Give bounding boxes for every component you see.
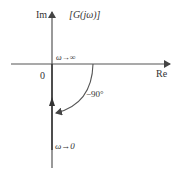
imaginary-axis-label: Im [36,9,47,20]
angle-label: −90° [86,89,104,99]
origin-label: 0 [40,70,45,81]
locus-direction-arrow-icon [49,97,55,106]
nyquist-plot-diagram: Im [G(jω)] ω→∞ 0 Re −90° ω→0 [0,0,178,178]
function-label: [G(jω)] [69,9,101,21]
omega-zero-label: ω→0 [55,141,75,151]
real-axis-label: Re [156,68,168,79]
omega-infinity-label: ω→∞ [56,53,76,62]
